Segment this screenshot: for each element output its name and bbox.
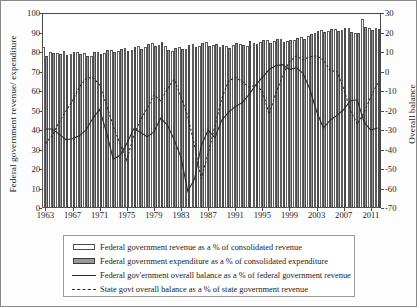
- y-axis-right-tick-mark: [381, 13, 384, 14]
- legend-key: [70, 282, 98, 296]
- y-axis-left-tick-label: 10: [14, 184, 40, 194]
- legend-swatch-revenue-icon: [73, 244, 95, 250]
- x-axis-tick-mark: [45, 208, 46, 211]
- y-axis-right-tick-label: -30: [385, 125, 411, 135]
- x-axis-tick-label: 1975: [118, 210, 135, 220]
- legend-swatch-expenditure-icon: [73, 258, 95, 264]
- y-axis-right-tick-label: -70: [385, 203, 411, 213]
- legend-item[interactable]: Federal government expenditure as a % of…: [70, 254, 348, 268]
- x-axis-tick-mark: [73, 208, 74, 211]
- y-axis-right-tick-mark: [381, 150, 384, 151]
- legend-key: [70, 268, 98, 282]
- x-axis-tick-label: 1987: [200, 210, 217, 220]
- x-axis-tick-mark: [262, 208, 263, 211]
- legend-key: [70, 254, 98, 268]
- y-axis-right-tick-label: -50: [385, 164, 411, 174]
- plot-canvas: 10090807060504030201003020100-10-20-30-4…: [42, 13, 381, 208]
- line-federal_balance: [45, 65, 377, 192]
- y-axis-right-tick-mark: [381, 130, 384, 131]
- x-axis-tick-mark: [289, 208, 290, 211]
- x-axis-tick-label: 1963: [37, 210, 54, 220]
- chart-page: Federal government revenue/ expenditure …: [0, 0, 417, 307]
- x-axis-tick-mark: [235, 208, 236, 211]
- y-axis-left-tick-label: 40: [14, 125, 40, 135]
- x-axis-tick-mark: [154, 208, 155, 211]
- y-axis-right-tick-mark: [381, 91, 384, 92]
- x-axis-tick-label: 1995: [254, 210, 271, 220]
- y-axis-right-tick-mark: [381, 208, 384, 209]
- x-axis-tick-label: 1971: [91, 210, 108, 220]
- y-axis-right-tick-label: 20: [385, 28, 411, 38]
- legend-swatch-dashed-line-icon: [72, 289, 96, 290]
- x-axis-tick-label: 2011: [362, 210, 379, 220]
- y-axis-right-tick-mark: [381, 169, 384, 170]
- line-series-layer: [42, 13, 381, 208]
- x-axis-tick-label: 1991: [227, 210, 244, 220]
- line-state_balance: [45, 56, 377, 179]
- x-axis-tick-mark: [100, 208, 101, 211]
- x-axis-tick-mark: [127, 208, 128, 211]
- y-axis-right-tick-mark: [381, 72, 384, 73]
- x-axis-tick-mark: [371, 208, 372, 211]
- y-axis-right-tick-mark: [381, 33, 384, 34]
- y-axis-right-tick-label: -60: [385, 184, 411, 194]
- y-axis-right-tick-label: 30: [385, 8, 411, 18]
- x-axis-tick-label: 1979: [145, 210, 162, 220]
- y-axis-left-tick-label: 90: [14, 28, 40, 38]
- x-axis-tick-label: 2007: [335, 210, 352, 220]
- y-axis-right-tick-label: 10: [385, 47, 411, 57]
- x-axis-tick-mark: [181, 208, 182, 211]
- legend-key: [70, 240, 98, 254]
- legend-item-label: Federal government revenue as a % of con…: [98, 243, 302, 252]
- y-axis-left-tick-mark: [39, 208, 42, 209]
- legend-swatch-solid-line-icon: [72, 275, 96, 276]
- x-axis-tick-mark: [317, 208, 318, 211]
- legend-item[interactable]: Federal gov'ernment overall balance as a…: [70, 268, 348, 282]
- legend-item[interactable]: State govt overall balance as a % of sta…: [70, 282, 348, 296]
- y-axis-right-tick-label: -40: [385, 145, 411, 155]
- chart-legend: Federal government revenue as a % of con…: [63, 235, 355, 297]
- legend-item[interactable]: Federal government revenue as a % of con…: [70, 240, 348, 254]
- y-axis-left-tick-label: 20: [14, 164, 40, 174]
- y-axis-right-tick-label: -20: [385, 106, 411, 116]
- y-axis-left-tick-label: 70: [14, 67, 40, 77]
- y-axis-left-tick-label: 50: [14, 106, 40, 116]
- plot-area: 10090807060504030201003020100-10-20-30-4…: [42, 13, 381, 208]
- legend-item-label: State govt overall balance as a % of sta…: [98, 285, 308, 294]
- x-axis-tick-mark: [344, 208, 345, 211]
- x-axis-tick-label: 1999: [281, 210, 298, 220]
- x-axis-tick-label: 1983: [172, 210, 189, 220]
- legend-item-label: Federal government expenditure as a % of…: [98, 257, 328, 266]
- x-axis-tick-label: 1967: [64, 210, 81, 220]
- y-axis-right-tick-mark: [381, 111, 384, 112]
- y-axis-left-tick-label: 100: [14, 8, 40, 18]
- y-axis-left-tick-label: 30: [14, 145, 40, 155]
- y-axis-right-tick-label: -10: [385, 86, 411, 96]
- x-axis-tick-mark: [208, 208, 209, 211]
- y-axis-right-tick-mark: [381, 189, 384, 190]
- y-axis-right-tick-mark: [381, 52, 384, 53]
- legend-item-label: Federal gov'ernment overall balance as a…: [98, 271, 351, 280]
- y-axis-right-tick-label: 0: [385, 67, 411, 77]
- y-axis-left-tick-label: 80: [14, 47, 40, 57]
- x-axis-tick-label: 2003: [308, 210, 325, 220]
- y-axis-left-tick-label: 60: [14, 86, 40, 96]
